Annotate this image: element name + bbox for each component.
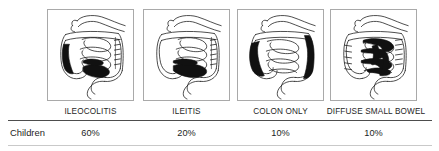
table-bottom-rule bbox=[8, 145, 432, 146]
column-label-diffuse-small-bowel: DIFFUSE SMALL BOWEL bbox=[324, 105, 428, 118]
table-top-rule bbox=[8, 120, 432, 121]
gi-tract-ileocolitis-diagram bbox=[48, 10, 133, 100]
illustration-panel-diffuse-small-bowel bbox=[330, 9, 417, 101]
column-label-ileitis: ILEITIS bbox=[143, 105, 230, 118]
column-label-colon-only: COLON ONLY bbox=[233, 105, 328, 118]
data-cell-ileocolitis: 60% bbox=[47, 126, 134, 140]
gi-tract-colon-only-diagram bbox=[238, 10, 323, 100]
data-cell-colon-only: 10% bbox=[237, 126, 324, 140]
column-header-row: ILEOCOLITIS ILEITIS COLON ONLY DIFFUSE S… bbox=[0, 105, 439, 120]
data-cell-diffuse-small-bowel: 10% bbox=[330, 126, 417, 140]
figure-root: ILEOCOLITIS ILEITIS COLON ONLY DIFFUSE S… bbox=[0, 0, 439, 151]
data-cell-ileitis: 20% bbox=[143, 126, 230, 140]
gi-tract-ileitis-diagram bbox=[144, 10, 229, 100]
illustration-panel-colon-only bbox=[237, 9, 324, 101]
illustration-panel-ileitis bbox=[143, 9, 230, 101]
illustration-panel-ileocolitis bbox=[47, 9, 134, 101]
lesion-shading bbox=[173, 59, 206, 77]
gi-tract-diffuse-small-bowel-diagram bbox=[331, 10, 416, 100]
lesion-shading bbox=[250, 35, 315, 78]
table-row: Children 60% 20% 10% 10% bbox=[0, 124, 439, 144]
column-label-ileocolitis: ILEOCOLITIS bbox=[47, 105, 134, 118]
illustration-panel-strip bbox=[0, 0, 439, 104]
